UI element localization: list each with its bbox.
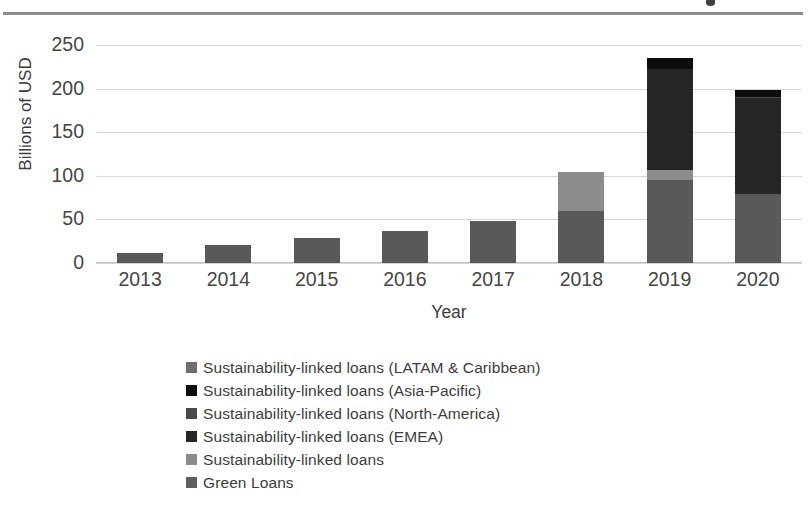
top-divider-rule bbox=[3, 12, 803, 15]
legend-item-label: Sustainability-linked loans (EMEA) bbox=[203, 428, 443, 446]
bar-group bbox=[96, 45, 802, 263]
bar-slot bbox=[184, 45, 272, 263]
chart-page: Billions of USD 250200150100500 20132014… bbox=[0, 0, 811, 518]
bar-segment bbox=[470, 221, 516, 263]
stacked-bar[interactable] bbox=[735, 90, 781, 263]
bar-slot bbox=[449, 45, 537, 263]
stacked-bar[interactable] bbox=[205, 245, 251, 263]
bar-segment bbox=[382, 231, 428, 263]
y-tick-label: 0 bbox=[24, 253, 84, 273]
bar-segment bbox=[735, 98, 781, 194]
bar-segment bbox=[735, 194, 781, 263]
x-tick-label: 2013 bbox=[96, 268, 184, 291]
y-tick-label: 200 bbox=[24, 79, 84, 99]
legend-swatch-icon bbox=[186, 362, 197, 373]
plot-area bbox=[96, 45, 802, 263]
bar-segment bbox=[117, 253, 163, 263]
stacked-bar[interactable] bbox=[294, 238, 340, 263]
legend-item-label: Sustainability-linked loans (Asia-Pacifi… bbox=[203, 382, 481, 400]
bar-slot bbox=[273, 45, 361, 263]
x-tick-label: 2020 bbox=[714, 268, 802, 291]
bar-segment bbox=[735, 90, 781, 97]
x-tick-label: 2014 bbox=[184, 268, 272, 291]
stacked-bar[interactable] bbox=[647, 58, 693, 263]
bar-segment bbox=[294, 238, 340, 263]
bar-slot bbox=[361, 45, 449, 263]
x-axis-ticks: 20132014201520162017201820192020 bbox=[96, 268, 802, 291]
y-axis-ticks: 250200150100500 bbox=[22, 45, 84, 263]
legend-item[interactable]: Sustainability-linked loans (EMEA) bbox=[186, 425, 541, 448]
legend-swatch-icon bbox=[186, 477, 197, 488]
bar-segment bbox=[647, 180, 693, 263]
legend-item-label: Sustainability-linked loans (North-Ameri… bbox=[203, 405, 500, 423]
y-tick-label: 50 bbox=[24, 210, 84, 230]
legend-swatch-icon bbox=[186, 385, 197, 396]
legend-item[interactable]: Sustainability-linked loans (LATAM & Car… bbox=[186, 356, 541, 379]
stacked-bar[interactable] bbox=[558, 172, 604, 263]
x-tick-label: 2015 bbox=[273, 268, 361, 291]
bar-segment bbox=[558, 172, 604, 210]
legend-item[interactable]: Sustainability-linked loans bbox=[186, 448, 541, 471]
gridline bbox=[96, 263, 802, 264]
bar-segment bbox=[647, 69, 693, 170]
x-tick-label: 2018 bbox=[537, 268, 625, 291]
legend-swatch-icon bbox=[186, 431, 197, 442]
stacked-bar[interactable] bbox=[470, 221, 516, 263]
legend-item-label: Sustainability-linked loans (LATAM & Car… bbox=[203, 359, 541, 377]
stacked-bar[interactable] bbox=[117, 253, 163, 263]
bar-slot bbox=[626, 45, 714, 263]
x-tick-label: 2016 bbox=[361, 268, 449, 291]
stacked-bar[interactable] bbox=[382, 231, 428, 263]
y-tick-label: 250 bbox=[24, 35, 84, 55]
x-tick-label: 2019 bbox=[626, 268, 714, 291]
bar-segment bbox=[647, 170, 693, 180]
legend-swatch-icon bbox=[186, 408, 197, 419]
bar-slot bbox=[714, 45, 802, 263]
bar-slot bbox=[96, 45, 184, 263]
legend-swatch-icon bbox=[186, 454, 197, 465]
legend-item-label: Sustainability-linked loans bbox=[203, 451, 384, 469]
x-tick-label: 2017 bbox=[449, 268, 537, 291]
legend-item[interactable]: Sustainability-linked loans (Asia-Pacifi… bbox=[186, 379, 541, 402]
x-axis-label: Year bbox=[96, 302, 802, 323]
legend-item-label: Green Loans bbox=[203, 474, 294, 492]
chart-legend: Sustainability-linked loans (LATAM & Car… bbox=[186, 356, 541, 494]
page-top-mark bbox=[706, 0, 715, 6]
y-tick-label: 100 bbox=[24, 166, 84, 186]
legend-item[interactable]: Green Loans bbox=[186, 471, 541, 494]
bar-slot bbox=[537, 45, 625, 263]
bar-segment bbox=[647, 58, 693, 68]
bar-segment bbox=[205, 245, 251, 263]
legend-item[interactable]: Sustainability-linked loans (North-Ameri… bbox=[186, 402, 541, 425]
bar-segment bbox=[558, 211, 604, 263]
y-tick-label: 150 bbox=[24, 122, 84, 142]
